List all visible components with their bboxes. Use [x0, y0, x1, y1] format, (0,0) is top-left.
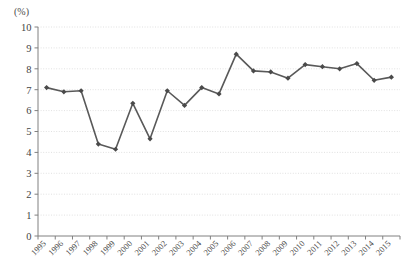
data-point-marker [268, 69, 273, 74]
data-point-marker [389, 75, 394, 80]
data-point-marker [337, 66, 342, 71]
y-tick-label: 1 [26, 210, 31, 221]
x-tick-label: 2013 [339, 238, 358, 257]
gridlines-group [38, 27, 400, 215]
x-tick-label: 2012 [322, 238, 341, 257]
x-tick-label: 2000 [115, 238, 134, 257]
y-tick-label: 7 [26, 85, 31, 96]
x-tick-label: 1999 [98, 238, 117, 257]
y-tick-label: 0 [26, 231, 31, 242]
line-chart: (%) 012345678910 19951996199719981999200… [0, 0, 409, 274]
y-tick-label: 9 [26, 43, 31, 54]
x-tick-label: 2011 [305, 238, 324, 257]
x-tick-labels-group: 1995199619971998199920002001200220032004… [29, 238, 393, 258]
x-tick-label: 2003 [167, 238, 186, 257]
y-tick-labels-group: 012345678910 [21, 22, 32, 242]
x-tick-label: 2004 [184, 238, 204, 258]
data-point-marker [130, 101, 135, 106]
x-tick-label: 2009 [270, 238, 289, 257]
data-series-group [44, 52, 394, 152]
y-tick-label: 5 [26, 126, 31, 137]
x-tick-label: 2005 [201, 238, 220, 257]
x-tick-label: 2008 [253, 238, 272, 257]
y-tick-label: 6 [26, 105, 31, 116]
x-tick-label: 1998 [81, 238, 100, 257]
x-tick-label: 1995 [29, 238, 48, 257]
chart-canvas: 012345678910 199519961997199819992000200… [0, 0, 409, 274]
x-tick-label: 2010 [288, 238, 307, 257]
x-tick-label: 1996 [46, 238, 65, 257]
data-point-marker [78, 88, 83, 93]
x-tick-label: 2007 [236, 238, 255, 257]
data-point-marker [216, 91, 221, 96]
y-tick-label: 4 [26, 147, 32, 158]
x-tick-label: 2006 [219, 238, 238, 257]
y-tick-label: 10 [21, 22, 32, 33]
data-point-marker [96, 141, 101, 146]
y-tick-label: 3 [26, 168, 31, 179]
data-point-marker [147, 136, 152, 141]
x-tick-label: 2002 [150, 238, 169, 257]
y-tick-marks-group [35, 27, 39, 236]
data-point-marker [113, 147, 118, 152]
y-tick-label: 8 [26, 64, 31, 75]
x-tick-label: 1997 [63, 238, 82, 257]
x-tick-label: 2014 [356, 238, 376, 258]
y-tick-label: 2 [26, 189, 31, 200]
x-tick-label: 2015 [374, 238, 393, 257]
x-tick-label: 2001 [132, 238, 151, 257]
